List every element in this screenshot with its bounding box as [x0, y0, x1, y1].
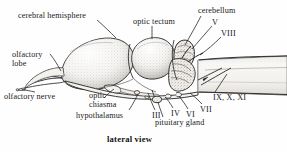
nerve-root-iii: [134, 91, 139, 95]
label-optic-chiasma-line2: chiasma: [89, 100, 117, 109]
brain-body-group: [16, 38, 287, 103]
label-nerve-ix-x-xi: IX, X, XI: [213, 93, 246, 102]
label-nerve-iv: IV: [171, 109, 180, 118]
label-olfactory-lobe-line2: lobe: [12, 59, 27, 68]
label-cerebellum: cerebellum: [198, 6, 235, 15]
label-nerve-vii: VII: [200, 105, 212, 114]
leader-nerve-viii: [200, 37, 221, 55]
spinal-cord-texture: [198, 56, 287, 95]
leader-cerebellum: [185, 16, 201, 45]
label-optic-chiasma-line1: optic: [89, 91, 106, 100]
brain-lateral-view-figure: cerebral hemisphere optic tectum cerebel…: [0, 0, 287, 152]
cerebral-hemisphere-shading: [62, 38, 134, 90]
label-pituitary-gland: pituitary gland: [155, 118, 204, 127]
leader-cerebral-hemisphere: [97, 20, 116, 38]
label-olfactory-lobe-line1: olfactory: [12, 50, 42, 59]
leader-nerve-v: [192, 26, 212, 49]
tectum-ventral-fold: [133, 78, 156, 92]
label-cerebral-hemisphere: cerebral hemisphere: [18, 11, 86, 20]
label-nerve-vi: VI: [186, 110, 195, 119]
olfactory-nerve-tip: [16, 89, 18, 91]
label-nerve-v: V: [212, 18, 218, 27]
label-olfactory-nerve: olfactory nerve: [4, 92, 55, 101]
figure-caption: lateral view: [107, 134, 152, 144]
nerve-root-vi: [166, 94, 171, 98]
label-nerve-iii: III: [152, 111, 161, 120]
label-hypothalamus: hypothalamus: [76, 111, 123, 120]
label-optic-tectum: optic tectum: [133, 17, 175, 26]
label-nerve-viii: VIII: [221, 29, 236, 38]
nerve-root-iv: [145, 96, 149, 99]
